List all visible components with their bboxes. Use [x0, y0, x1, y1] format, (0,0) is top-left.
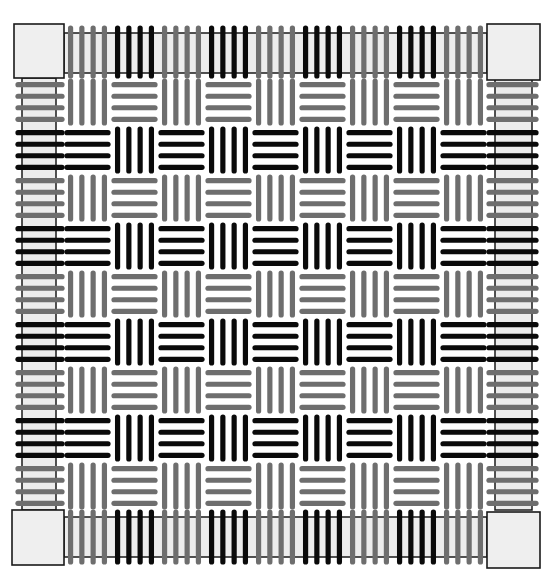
weave-cell	[165, 465, 199, 507]
weave-cell	[259, 273, 293, 315]
weave-cell	[302, 181, 343, 216]
weave-cell	[443, 325, 484, 360]
weave-cell	[447, 465, 481, 507]
weave-cell	[302, 85, 343, 120]
weave-grid	[67, 81, 484, 507]
weave-cell	[255, 133, 296, 168]
weave-cell	[255, 325, 296, 360]
weave-cell	[353, 465, 387, 507]
corner-top-left	[14, 24, 64, 78]
weave-cell	[396, 85, 437, 120]
weave-cell	[302, 469, 343, 504]
weave-cell	[447, 81, 481, 123]
weave-cell	[71, 81, 105, 123]
weave-cell	[118, 417, 152, 459]
weave-cell	[161, 325, 202, 360]
weave-cell	[118, 321, 152, 363]
weave-cell	[396, 373, 437, 408]
weave-cell	[353, 273, 387, 315]
weave-cell	[208, 85, 249, 120]
weave-cell	[67, 133, 108, 168]
corner-bottom-left	[12, 510, 64, 565]
weave-cell	[165, 369, 199, 411]
corner-top-right	[487, 24, 540, 80]
weave-cell	[349, 229, 390, 264]
weave-cell	[396, 277, 437, 312]
weave-cell	[114, 469, 155, 504]
weave-cell	[165, 177, 199, 219]
weave-cell	[447, 369, 481, 411]
weave-cell	[165, 273, 199, 315]
weave-cell	[400, 225, 434, 267]
weave-cell	[259, 81, 293, 123]
weave-cell	[306, 321, 340, 363]
weave-cell	[353, 177, 387, 219]
weave-cell	[165, 81, 199, 123]
weave-cell	[208, 181, 249, 216]
weave-cell	[208, 277, 249, 312]
weave-cell	[161, 421, 202, 456]
weave-cell	[161, 133, 202, 168]
weave-cell	[114, 181, 155, 216]
weave-cell	[353, 81, 387, 123]
weave-cell	[259, 177, 293, 219]
weave-cell	[302, 277, 343, 312]
weave-cell	[306, 129, 340, 171]
weave-cell	[208, 373, 249, 408]
weave-cell	[71, 465, 105, 507]
weave-cell	[212, 321, 246, 363]
weave-cell	[447, 273, 481, 315]
weave-cell	[67, 421, 108, 456]
weave-cell	[67, 229, 108, 264]
weave-cell	[353, 369, 387, 411]
weave-cell	[114, 373, 155, 408]
weave-canvas	[0, 0, 553, 580]
weave-cell	[212, 417, 246, 459]
weave-cell	[255, 421, 296, 456]
weave-cell	[396, 181, 437, 216]
weave-cell	[118, 225, 152, 267]
weave-cell	[349, 421, 390, 456]
weave-cell	[212, 129, 246, 171]
weave-cell	[161, 229, 202, 264]
weave-cell	[306, 225, 340, 267]
weave-cell	[208, 469, 249, 504]
weave-cell	[400, 321, 434, 363]
weave-cell	[302, 373, 343, 408]
weave-cell	[306, 417, 340, 459]
weave-cell	[447, 177, 481, 219]
weave-cell	[71, 177, 105, 219]
weave-cell	[118, 129, 152, 171]
weave-cell	[114, 85, 155, 120]
corner-bottom-right	[487, 512, 540, 568]
weave-cell	[71, 369, 105, 411]
weave-cell	[212, 225, 246, 267]
weave-cell	[443, 421, 484, 456]
weave-cell	[349, 133, 390, 168]
weave-cell	[443, 229, 484, 264]
weave-cell	[443, 133, 484, 168]
basket-weave-figure: Basket weave pattern	[0, 0, 553, 580]
weave-cell	[400, 417, 434, 459]
weave-cell	[114, 277, 155, 312]
weave-cell	[349, 325, 390, 360]
weave-cell	[396, 469, 437, 504]
weave-cell	[67, 325, 108, 360]
weave-cell	[255, 229, 296, 264]
weave-cell	[259, 369, 293, 411]
weave-cell	[400, 129, 434, 171]
weave-cell	[71, 273, 105, 315]
weave-cell	[259, 465, 293, 507]
